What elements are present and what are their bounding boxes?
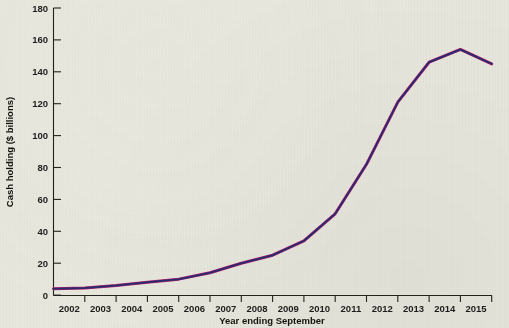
x-tick-label: 2005 xyxy=(153,303,175,314)
line-chart: 180 160 140 120 100 80 60 40 20 0 xyxy=(0,0,509,328)
x-tick-label: 2007 xyxy=(215,303,236,314)
y-tick-label: 160 xyxy=(32,34,48,45)
y-tick-label: 40 xyxy=(37,226,48,237)
x-tick-label: 2002 xyxy=(59,303,80,314)
y-axis-title-text: Cash holding ($ billions) xyxy=(4,97,15,207)
x-tick-label: 2013 xyxy=(403,303,424,314)
y-tick-label: 180 xyxy=(32,3,48,14)
y-tick-label: 0 xyxy=(43,290,48,301)
x-tick-label: 2012 xyxy=(372,303,393,314)
x-tick-labels: 2002 2003 2004 2005 2006 2007 2008 2009 … xyxy=(59,303,488,314)
x-tick-label: 2009 xyxy=(278,303,299,314)
series-line-navy xyxy=(54,49,492,288)
y-tick-label: 120 xyxy=(32,98,48,109)
series-line-magenta xyxy=(54,49,492,288)
x-tick-label: 2004 xyxy=(121,303,143,314)
x-tick-label: 2010 xyxy=(309,303,330,314)
chart-svg: 180 160 140 120 100 80 60 40 20 0 xyxy=(0,0,509,328)
x-tick-label: 2014 xyxy=(434,303,456,314)
x-tick-marks xyxy=(85,296,492,303)
y-tick-marks xyxy=(54,8,62,295)
x-tick-label: 2015 xyxy=(466,303,488,314)
x-tick-label: 2006 xyxy=(184,303,205,314)
x-tick-label: 2011 xyxy=(341,303,362,314)
y-tick-label: 140 xyxy=(32,66,48,77)
y-tick-label: 100 xyxy=(32,130,48,141)
x-tick-label: 2003 xyxy=(90,303,111,314)
y-tick-label: 80 xyxy=(37,162,48,173)
x-axis-title: Year ending September xyxy=(219,315,325,326)
y-tick-label: 20 xyxy=(37,258,48,269)
x-tick-label: 2008 xyxy=(246,303,267,314)
y-tick-labels: 180 160 140 120 100 80 60 40 20 0 xyxy=(32,3,48,301)
y-tick-label: 60 xyxy=(37,194,48,205)
